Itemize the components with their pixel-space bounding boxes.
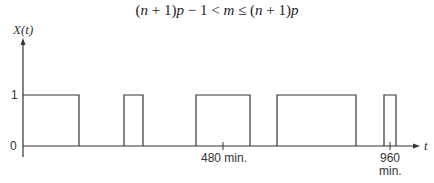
x-tick-480-label: 480 min.	[201, 151, 247, 165]
x-axis-label: t	[424, 138, 428, 153]
y-tick-0: 0	[10, 139, 17, 153]
pulse-5	[384, 95, 396, 146]
pulse-4	[277, 95, 356, 146]
pulse-3	[196, 95, 250, 146]
x-axis-arrow-icon	[413, 144, 420, 149]
y-axis-label: X(t)	[12, 22, 33, 37]
step-chart: X(t) t 1 0 480 min. 960 min.	[0, 0, 434, 183]
x-tick-960-unit: min.	[379, 164, 402, 178]
step-series	[23, 95, 396, 146]
y-tick-1: 1	[11, 88, 18, 102]
x-tick-960-label: 960	[380, 151, 400, 165]
pulse-2	[124, 95, 143, 146]
y-axis-arrow-icon	[21, 38, 26, 45]
pulse-1	[23, 95, 79, 146]
